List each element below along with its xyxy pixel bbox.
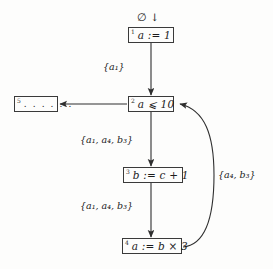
- node-2[interactable]: 2 a ⩽ 10: [128, 96, 174, 112]
- node-3-index: 3: [126, 169, 130, 175]
- node-4-index: 4: [125, 240, 129, 246]
- node-4-label: a := b × 3: [132, 241, 188, 252]
- edge-label-3-to-4: {a₁, a₄, b₃}: [80, 201, 133, 211]
- edge-label-2-to-3: {a₁, a₄, b₃}: [80, 135, 133, 145]
- node-1[interactable]: 1 a := 1: [128, 27, 174, 43]
- node-2-label: a ⩽ 10: [138, 99, 175, 110]
- flow-graph-diagram: ∅ ↓ 1 a := 1 2 a ⩽ 10 3 b := c + 1 4 a :…: [0, 0, 273, 269]
- edge-label-1-to-2: {a₁}: [103, 62, 125, 72]
- node-5[interactable]: 5 . . . . . .: [14, 96, 58, 112]
- node-2-index: 2: [131, 98, 135, 104]
- node-5-index: 5: [17, 98, 21, 104]
- entry-annotation: ∅ ↓: [137, 11, 159, 23]
- node-4[interactable]: 4 a := b × 3: [122, 238, 182, 254]
- node-1-index: 1: [131, 29, 135, 35]
- edge-label-4-to-2: {a₄, b₃}: [218, 170, 256, 180]
- node-3[interactable]: 3 b := c + 1: [123, 167, 183, 183]
- node-5-label: . . . . . .: [24, 100, 73, 109]
- node-1-label: a := 1: [138, 30, 171, 41]
- node-3-label: b := c + 1: [133, 170, 189, 181]
